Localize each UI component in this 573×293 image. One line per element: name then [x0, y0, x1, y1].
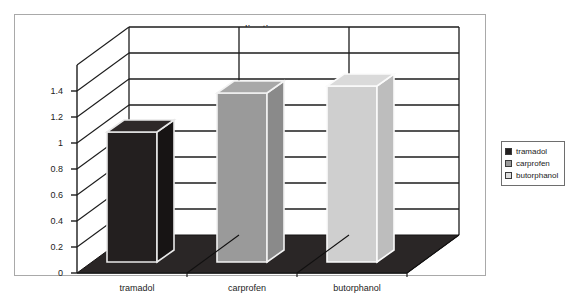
- xtick-label-butorphanol: butorphanol: [312, 283, 402, 293]
- bar-tramadol[interactable]: [107, 120, 174, 262]
- ytick-label-0: 0: [35, 268, 63, 278]
- value-axis-ticks: [71, 91, 77, 273]
- ytick-label-0.4: 0.4: [35, 216, 63, 226]
- xtick-label-tramadol: tramadol: [92, 283, 182, 293]
- legend-swatch-butorphanol-icon: [505, 172, 512, 179]
- chart-frame: vocalization: [14, 14, 486, 276]
- ytick-label-1.2: 1.2: [35, 112, 63, 122]
- legend-swatch-carprofen-icon: [505, 160, 512, 167]
- ytick-label-0.8: 0.8: [35, 164, 63, 174]
- ytick-label-1.4: 1.4: [35, 86, 63, 96]
- ytick-label-0.2: 0.2: [35, 242, 63, 252]
- legend-label-butorphanol: butorphanol: [516, 171, 558, 180]
- plot-area-3d: [15, 15, 487, 277]
- bar-carprofen[interactable]: [217, 81, 284, 262]
- legend-item-butorphanol[interactable]: butorphanol: [505, 170, 561, 181]
- legend-label-tramadol: tramadol: [516, 147, 547, 156]
- legend-item-tramadol[interactable]: tramadol: [505, 146, 561, 157]
- legend-label-carprofen: carprofen: [516, 159, 550, 168]
- legend-swatch-tramadol-icon: [505, 148, 512, 155]
- bar-butorphanol[interactable]: [327, 74, 394, 262]
- xtick-label-carprofen: carprofen: [202, 283, 292, 293]
- legend-item-carprofen[interactable]: carprofen: [505, 158, 561, 169]
- ytick-label-1: 1: [35, 138, 63, 148]
- chart-legend: tramadol carprofen butorphanol: [501, 141, 565, 186]
- ytick-label-0.6: 0.6: [35, 190, 63, 200]
